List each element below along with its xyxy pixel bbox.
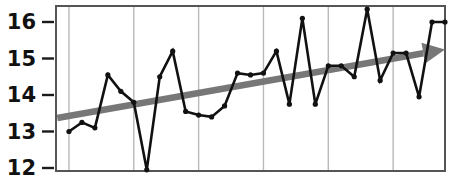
y-axis-tick-label: 12	[7, 156, 36, 180]
y-axis-tick-marks	[42, 22, 54, 168]
data-point-marker	[131, 100, 136, 105]
data-point-marker	[66, 129, 71, 134]
y-axis-tick-labels: 1213141516	[7, 10, 36, 180]
chart-container: 1213141516	[0, 0, 457, 190]
data-point-marker	[416, 94, 421, 99]
data-point-marker	[209, 114, 214, 119]
data-point-marker	[118, 89, 123, 94]
data-point-marker	[404, 50, 409, 55]
data-point-marker	[92, 125, 97, 130]
y-axis-tick-label: 14	[7, 83, 36, 107]
data-point-marker	[326, 63, 331, 68]
data-point-marker	[352, 74, 357, 79]
data-point-marker	[261, 71, 266, 76]
plot-area-frame	[56, 6, 445, 171]
data-point-marker	[222, 103, 227, 108]
data-point-marker	[144, 167, 149, 172]
data-point-marker	[339, 63, 344, 68]
data-point-marker	[274, 49, 279, 54]
data-point-marker	[391, 50, 396, 55]
data-point-marker	[183, 109, 188, 114]
data-point-marker	[313, 102, 318, 107]
data-point-marker	[442, 19, 447, 24]
y-axis-tick-label: 15	[7, 47, 36, 71]
data-point-marker	[378, 78, 383, 83]
y-axis-tick-label: 16	[7, 10, 36, 34]
data-point-marker	[235, 71, 240, 76]
data-point-marker	[248, 72, 253, 77]
y-axis-tick-label: 13	[7, 120, 36, 144]
data-point-marker	[429, 19, 434, 24]
data-point-marker	[365, 7, 370, 12]
data-point-marker	[196, 112, 201, 117]
data-point-marker	[79, 120, 84, 125]
data-point-marker	[300, 16, 305, 21]
data-point-marker	[157, 74, 162, 79]
data-point-marker	[287, 102, 292, 107]
line-chart: 1213141516	[0, 0, 457, 190]
data-point-marker	[170, 49, 175, 54]
data-point-marker	[105, 72, 110, 77]
